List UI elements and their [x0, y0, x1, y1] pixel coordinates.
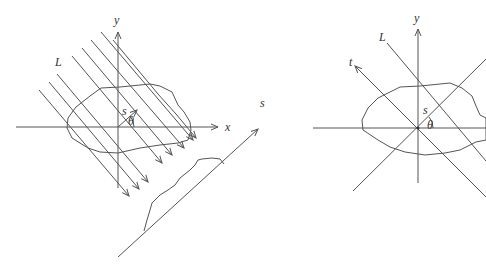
- line-label-left: L: [54, 55, 62, 69]
- origin-point-right: [417, 127, 420, 130]
- angle-label-left: θ: [128, 114, 134, 128]
- y-axis-label-left: y: [113, 13, 120, 27]
- t-axis-label-right: t: [349, 55, 353, 69]
- right-figure: y L t s θ: [313, 11, 486, 197]
- angle-label-right: θ: [427, 118, 433, 132]
- y-axis-label-right: y: [413, 11, 420, 25]
- diagram-canvas: x y L s θ s y L t s θ: [0, 0, 486, 269]
- line-label-right: L: [378, 30, 386, 44]
- x-axis-label-left: x: [224, 120, 231, 134]
- object-blob-right: [362, 83, 486, 155]
- offset-label-right: s: [423, 103, 428, 117]
- projection-axis-label: s: [260, 96, 265, 110]
- offset-label-left: s: [122, 104, 127, 118]
- left-figure: x y L s θ s: [16, 13, 265, 257]
- s-axis-right: [353, 59, 486, 191]
- line-L-right: [387, 43, 486, 161]
